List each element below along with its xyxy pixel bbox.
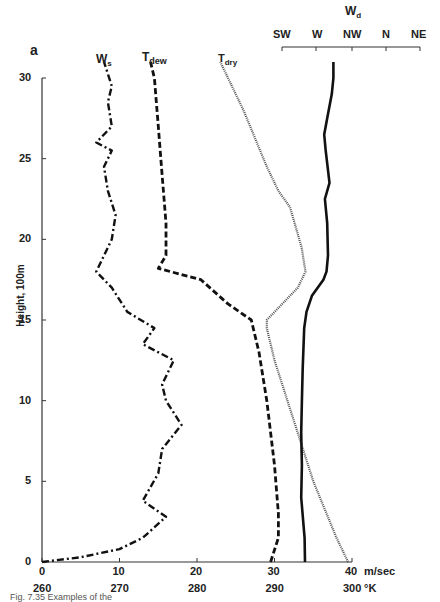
legend-tdew: Tdew (142, 50, 167, 66)
wd-tick-label: SW (273, 28, 291, 40)
x-temp-tick-label: 280 (188, 582, 206, 594)
x-temp-tick-label: 300 (343, 582, 361, 594)
x-temp-unit: °K (364, 582, 376, 594)
x-temp-tick-label: 270 (111, 582, 129, 594)
y-tick-label: 30 (19, 71, 31, 83)
series-wd-line (301, 62, 333, 562)
x-speed-unit: m/sec (364, 565, 395, 577)
legend-tdry: Tdry (218, 52, 237, 67)
x-speed-tick-label: 20 (190, 565, 202, 577)
x-speed-tick-label: 30 (268, 565, 280, 577)
y-tick-label: 0 (25, 555, 31, 567)
x-temp-tick-label: 290 (266, 582, 284, 594)
y-tick-label: 20 (19, 232, 31, 244)
profile-chart (0, 0, 440, 602)
series-lines (42, 62, 348, 562)
wd-tick-label: NW (343, 28, 361, 40)
panel-letter: a (30, 42, 38, 58)
x-speed-tick-label: 10 (113, 565, 125, 577)
y-tick-label: 10 (19, 394, 31, 406)
y-tick-label: 5 (25, 474, 31, 486)
figure-caption: Fig. 7.35 Examples of the (10, 592, 112, 602)
x-speed-tick-label: 40 (345, 565, 357, 577)
series-tdew-line (151, 62, 279, 562)
y-tick-label: 15 (19, 313, 31, 325)
series-ws-line (42, 62, 182, 562)
wd-tick-label: N (382, 28, 390, 40)
x-speed-tick-label: 0 (39, 565, 45, 577)
series-tdry-line (220, 62, 348, 562)
wd-tick-label: W (312, 28, 322, 40)
legend-wd: Wd (345, 4, 361, 20)
y-tick-label: 25 (19, 152, 31, 164)
legend-ws: Ws (96, 52, 112, 68)
wd-tick-label: NE (411, 28, 426, 40)
